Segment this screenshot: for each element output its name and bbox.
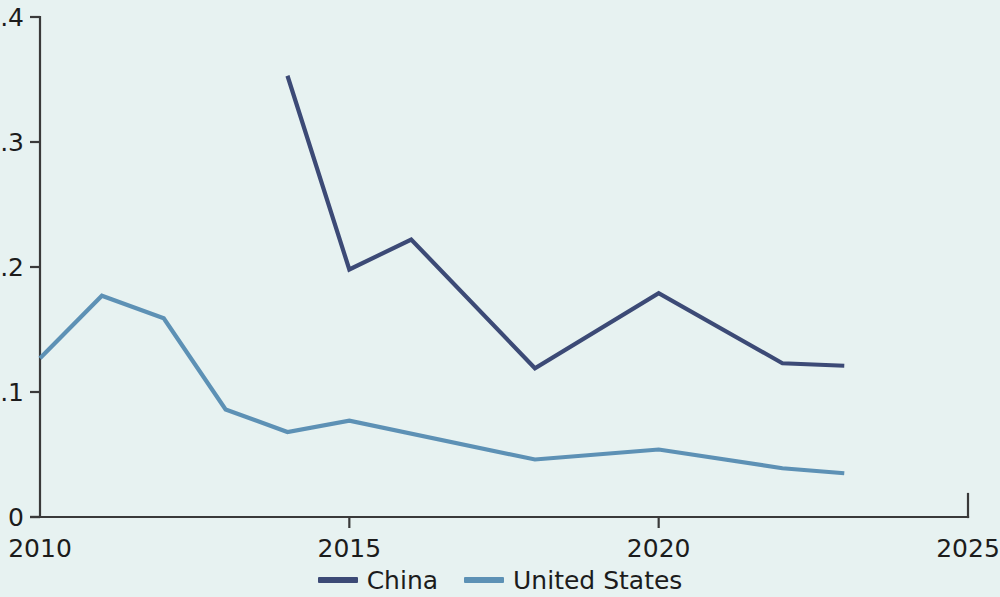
chart-plot-area: 00.10.20.30.4 2010201520202025 xyxy=(0,0,1000,560)
legend-item-china[interactable]: China xyxy=(318,568,438,593)
y-axis: 00.10.20.30.4 xyxy=(0,3,40,532)
legend-swatch-icon xyxy=(318,577,358,583)
legend-item-united-states[interactable]: United States xyxy=(464,568,682,593)
y-tick-label: 0.2 xyxy=(0,253,24,282)
y-tick-label: 0.4 xyxy=(0,3,24,32)
line-chart: 00.10.20.30.4 2010201520202025 ChinaUnit… xyxy=(0,0,1000,597)
chart-series-lines xyxy=(40,76,844,474)
x-tick-label: 2020 xyxy=(627,534,691,560)
legend-item-label: China xyxy=(367,568,438,593)
y-tick-label: 0.3 xyxy=(0,128,24,157)
x-axis-ticks xyxy=(30,517,659,528)
x-axis: 2010201520202025 xyxy=(8,494,1000,560)
y-axis-tick-labels: 00.10.20.30.4 xyxy=(0,3,24,532)
series-line-united-states xyxy=(40,296,844,474)
x-tick-label: 2025 xyxy=(936,534,1000,560)
y-tick-label: 0 xyxy=(8,503,24,532)
x-axis-tick-labels: 2010201520202025 xyxy=(8,534,1000,560)
legend-swatch-icon xyxy=(464,577,504,583)
y-tick-label: 0.1 xyxy=(0,378,24,407)
y-axis-ticks xyxy=(30,17,40,517)
series-line-china xyxy=(287,76,844,369)
x-tick-label: 2010 xyxy=(8,534,72,560)
x-tick-label: 2015 xyxy=(318,534,382,560)
legend-item-label: United States xyxy=(513,568,682,593)
chart-legend: ChinaUnited States xyxy=(0,563,1000,597)
